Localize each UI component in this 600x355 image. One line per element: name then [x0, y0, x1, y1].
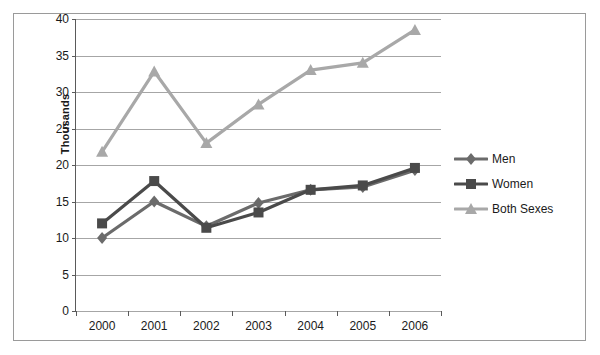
x-tick-label-2004: 2004: [297, 319, 324, 333]
data-point-2002: [201, 223, 211, 233]
x-tick-label-2006: 2006: [402, 319, 429, 333]
y-tick-label-25: 25: [56, 122, 69, 136]
legend-label: Women: [492, 177, 533, 191]
chart-frame: Thousands 0510152025303540 2000200120022…: [13, 13, 586, 341]
data-point-2006: [409, 24, 421, 35]
x-tick-mark-5: [337, 311, 338, 316]
y-tick-label-10: 10: [56, 231, 69, 245]
x-tick-mark-7: [441, 311, 442, 316]
plot-area: 0510152025303540 20002001200220032004200…: [76, 19, 441, 311]
legend-label: Both Sexes: [492, 202, 553, 216]
x-tick-label-2005: 2005: [349, 319, 376, 333]
data-point-2005: [358, 180, 368, 190]
series-both-sexes: [96, 24, 421, 157]
data-point-2003: [254, 207, 264, 217]
y-tick-label-35: 35: [56, 49, 69, 63]
legend-item-women[interactable]: Women: [454, 171, 584, 196]
series-men: [97, 164, 420, 244]
x-tick-mark-4: [285, 311, 286, 316]
y-tick-label-30: 30: [56, 85, 69, 99]
legend-label: Men: [492, 152, 515, 166]
x-tick-mark-6: [389, 311, 390, 316]
series-lines: [76, 19, 441, 311]
data-point-2003: [254, 197, 264, 209]
data-point-2001: [149, 176, 159, 186]
legend-item-both-sexes[interactable]: Both Sexes: [454, 196, 584, 221]
data-point-2001: [148, 66, 160, 77]
x-tick-label-2000: 2000: [89, 319, 116, 333]
x-tick-label-2003: 2003: [245, 319, 272, 333]
gridline-0: [76, 311, 441, 312]
x-tick-mark-0: [76, 311, 77, 316]
x-tick-mark-2: [180, 311, 181, 316]
legend-item-men[interactable]: Men: [454, 146, 584, 171]
y-tick-label-40: 40: [56, 12, 69, 26]
x-tick-label-2001: 2001: [141, 319, 168, 333]
legend-swatch-triangle-icon: [454, 202, 488, 216]
series-line: [102, 30, 415, 152]
data-point-2006: [410, 163, 420, 173]
y-tick-label-15: 15: [56, 195, 69, 209]
x-tick-label-2002: 2002: [193, 319, 220, 333]
chart-legend: MenWomenBoth Sexes: [454, 146, 584, 221]
legend-swatch-diamond-icon: [454, 152, 488, 166]
data-point-2004: [306, 185, 316, 195]
x-tick-mark-1: [128, 311, 129, 316]
legend-swatch-square-icon: [454, 177, 488, 191]
y-tick-label-5: 5: [62, 268, 69, 282]
y-tick-label-0: 0: [62, 304, 69, 318]
data-point-2000: [97, 218, 107, 228]
x-tick-mark-3: [232, 311, 233, 316]
y-tick-label-20: 20: [56, 158, 69, 172]
